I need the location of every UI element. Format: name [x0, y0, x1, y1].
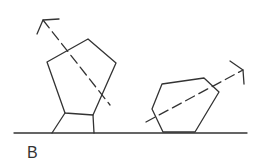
right-polygon — [152, 78, 219, 132]
right-dashed-axis — [146, 70, 243, 122]
left-leg-1 — [52, 113, 65, 133]
left-leg-2 — [93, 115, 94, 133]
right-arrowhead-icon — [230, 61, 244, 84]
left-pentagon — [47, 39, 116, 115]
left-dashed-axis — [43, 20, 110, 105]
figure-label: B — [27, 144, 38, 162]
diagram — [0, 0, 261, 162]
